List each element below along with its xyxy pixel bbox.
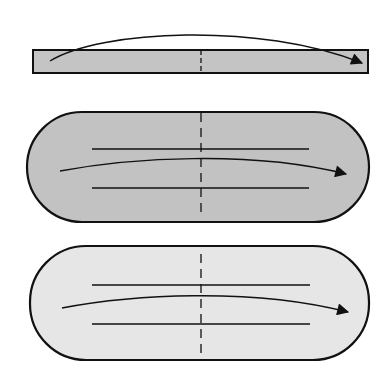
strip-panel (33, 35, 368, 74)
dark-slab-shape (27, 112, 369, 222)
dark-slab-panel (27, 112, 369, 222)
light-slab-shape (30, 246, 369, 360)
diagram-canvas (0, 0, 389, 386)
light-slab-panel (30, 246, 369, 360)
